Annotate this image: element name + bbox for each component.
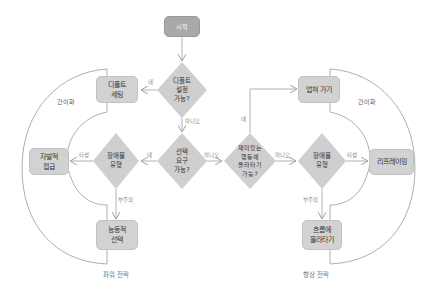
left-region-label: 간이화 bbox=[57, 97, 75, 106]
start-node: 시작 bbox=[164, 16, 200, 37]
fun-behavior-text: 재미있는 행동에 올라타기 가능? bbox=[226, 141, 274, 181]
active-choice-box: 능동적 선택 bbox=[96, 220, 138, 250]
right-strategy-caption: 향상 전략 bbox=[303, 269, 329, 279]
right-region-label: 간이화 bbox=[358, 97, 376, 106]
obstacle-right-text: 장애물 유형 bbox=[302, 148, 342, 174]
left-strategy-caption: 파워 전략 bbox=[103, 269, 129, 279]
carry-along-box: 업혀 가기 bbox=[298, 76, 340, 103]
default-possible-text: 디폴트 설정 가능? bbox=[160, 72, 204, 108]
self-access-box: 자발적 접급 bbox=[29, 148, 69, 175]
edge-label-no-choice: 아니오 bbox=[204, 151, 219, 159]
edge-label-yes-choice: 네 bbox=[147, 151, 152, 159]
reframing-box: 리프레이밍 bbox=[369, 149, 414, 175]
edge-label-inertia-left: 타성 bbox=[79, 151, 89, 159]
edge-label-no-default: 아니오 bbox=[185, 117, 200, 125]
default-setting-box: 디폴트 세팅 bbox=[96, 76, 138, 103]
edge-label-inattention-left: 부주의 bbox=[118, 196, 133, 204]
ride-flow-box: 흐름에 올라타기 bbox=[302, 220, 342, 250]
edge-label-yes-fun: 네 bbox=[241, 115, 246, 123]
flowchart-canvas bbox=[0, 0, 437, 292]
obstacle-left-text: 장애물 유형 bbox=[96, 148, 136, 174]
edge-label-inattention-right: 부주의 bbox=[303, 196, 318, 204]
edge-label-no-fun: 아니오 bbox=[275, 151, 290, 159]
edge-label-inertia-right: 타성 bbox=[347, 151, 357, 159]
choice-request-text: 선택 요구 가능? bbox=[160, 143, 204, 179]
edge-label-yes-default: 네 bbox=[148, 78, 153, 86]
